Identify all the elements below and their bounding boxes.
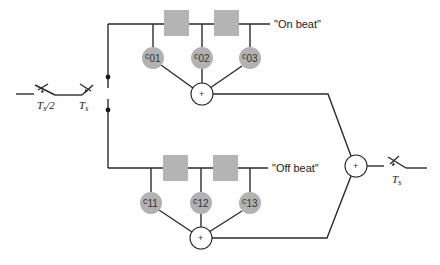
off-beat-branch: "Off beat" c11 c12 c13 + — [108, 155, 351, 249]
switch-ts-label: Ts — [79, 99, 88, 113]
coef-c02: c02 — [191, 47, 213, 69]
output-section: + Ts — [345, 155, 427, 187]
svg-text:+: + — [199, 89, 204, 99]
output-summer-icon: + — [345, 155, 367, 177]
coef-c12: c12 — [190, 192, 212, 214]
switch-ts-half-label: Ts/2 — [37, 99, 55, 113]
switch-ts-half-icon — [35, 84, 55, 95]
off-beat-label: "Off beat" — [272, 162, 319, 174]
svg-text:+: + — [353, 161, 358, 171]
contact-dot-bottom — [106, 108, 111, 113]
coef-c03: c03 — [239, 47, 261, 69]
output-switch-label: Ts — [392, 173, 401, 187]
off-beat-output-wire — [212, 176, 351, 238]
on-beat-output-wire — [213, 94, 351, 156]
output-switch-icon — [388, 156, 406, 168]
contact-dot-top — [106, 75, 111, 80]
delay-block — [213, 155, 238, 181]
delay-block — [214, 10, 239, 36]
commutator — [106, 24, 111, 168]
on-beat-label: "On beat" — [274, 18, 321, 30]
diagram-canvas: Ts/2 Ts "On beat" c01 c02 — [0, 0, 440, 265]
switch-ts-icon — [80, 84, 93, 95]
delay-block — [163, 155, 188, 181]
coef-c11: c11 — [140, 192, 162, 214]
delay-block — [164, 10, 189, 36]
on-beat-branch: "On beat" c01 c02 c03 + — [108, 10, 351, 156]
input-section: Ts/2 Ts — [16, 84, 93, 113]
coef-c13: c13 — [239, 192, 261, 214]
off-beat-summer-icon: + — [190, 227, 212, 249]
on-beat-summer-icon: + — [191, 83, 213, 105]
coef-c01: c01 — [142, 47, 164, 69]
svg-text:+: + — [198, 233, 203, 243]
